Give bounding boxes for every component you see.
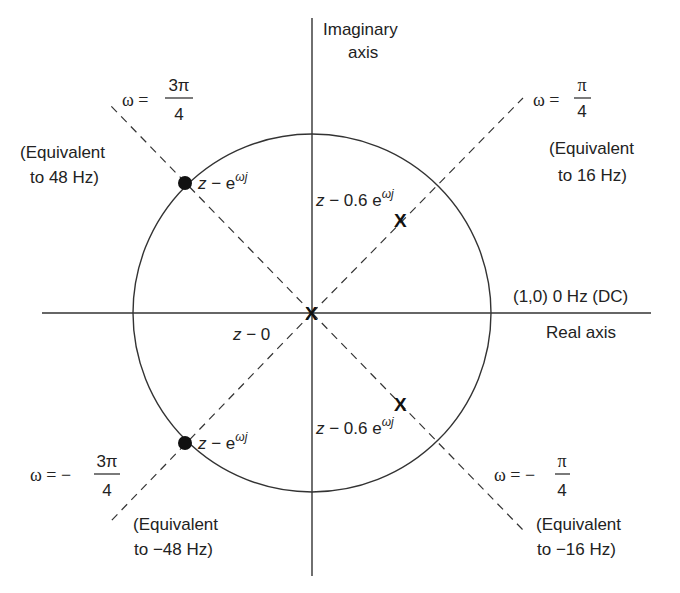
equiv-48hz-line2: to 48 Hz) [30,168,99,187]
svg-text:π: π [557,451,566,471]
svg-text:ω = −: ω = − [494,465,535,485]
equiv-neg16hz-line1: (Equivalent [536,515,621,534]
pole-marker-lower: X [394,394,407,415]
svg-text:ω =: ω = [122,90,149,110]
svg-text:4: 4 [557,481,566,500]
omega-label-3pi-over-4: ω = 3π 4 [122,76,193,124]
zero-label-upper: z − eωj [197,170,248,193]
omega-label-neg-pi-over-4: ω = − π 4 [494,451,570,500]
imaginary-axis-label-line2: axis [348,43,378,62]
svg-text:3π: 3π [168,76,189,95]
pole-marker-upper: X [394,210,407,231]
angle-line-neg-3pi-over-4 [110,313,312,522]
pole-zero-diagram: Imaginary axis (1,0) 0 Hz (DC) Real axis… [0,0,680,593]
pole-label-origin: z − 0 [232,325,270,344]
omega-label-pi-over-4: ω = π 4 [533,75,591,121]
imaginary-axis-label-line1: Imaginary [323,20,398,39]
pole-marker-origin: X [305,303,318,324]
omega-label-neg-3pi-over-4: ω = − 3π 4 [30,452,120,500]
zero-label-lower: z − eωj [197,430,248,453]
zero-marker-lower [178,436,192,450]
pole-label-upper: z − 0.6 eωj [315,187,394,210]
svg-text:4: 4 [577,102,586,121]
svg-text:ω = −: ω = − [30,465,71,485]
pole-label-lower: z − 0.6 eωj [315,415,394,438]
zero-marker-upper [178,176,192,190]
equiv-16hz-line2: to 16 Hz) [558,166,627,185]
svg-text:3π: 3π [96,452,117,471]
svg-text:4: 4 [102,481,111,500]
svg-text:ω =: ω = [533,90,560,110]
svg-text:4: 4 [174,105,183,124]
svg-text:π: π [577,75,586,95]
equiv-neg48hz-line2: to −48 Hz) [134,540,213,559]
equiv-16hz-line1: (Equivalent [549,139,634,158]
equiv-48hz-line1: (Equivalent [20,143,105,162]
real-axis-label: Real axis [546,323,616,342]
dc-label: (1,0) 0 Hz (DC) [513,287,628,306]
equiv-neg16hz-line2: to −16 Hz) [537,540,616,559]
equiv-neg48hz-line1: (Equivalent [133,515,218,534]
